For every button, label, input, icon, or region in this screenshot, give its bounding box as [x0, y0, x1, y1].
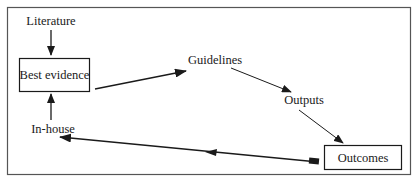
arrow-guidelines-to-outputs — [231, 68, 291, 92]
best-evidence-node: Best evidence — [20, 59, 90, 92]
outcomes-node: Outcomes — [325, 146, 402, 170]
evidence-cycle-diagram: Literature Best evidence Guidelines Outp… — [0, 0, 417, 183]
guidelines-label: Guidelines — [188, 53, 242, 67]
arrow-best-evidence-to-guidelines — [95, 71, 186, 89]
arrow-mid-head — [205, 149, 217, 156]
arrow-outputs-to-outcomes — [299, 110, 343, 143]
outcomes-label: Outcomes — [338, 151, 389, 165]
arrow-outcomes-to-in-house — [60, 137, 319, 164]
best-evidence-label: Best evidence — [20, 68, 90, 82]
outputs-label: Outputs — [284, 93, 324, 107]
in-house-label: In-house — [31, 122, 75, 136]
literature-label: Literature — [26, 14, 76, 28]
arrow-tail-block — [309, 158, 320, 165]
